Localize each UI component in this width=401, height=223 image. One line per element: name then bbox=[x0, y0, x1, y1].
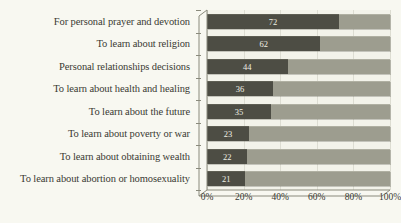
plot-area: 7262443635232221 bbox=[207, 10, 390, 190]
value-tick-label: 0% bbox=[201, 192, 214, 202]
bar-segment-primary: 35 bbox=[207, 104, 271, 119]
bar-row: 21 bbox=[207, 168, 390, 191]
bar-row: 23 bbox=[207, 123, 390, 146]
category-tick bbox=[196, 78, 201, 79]
bar-value-label: 44 bbox=[243, 63, 252, 72]
stacked-bar: 35 bbox=[207, 104, 390, 119]
stacked-bar: 62 bbox=[207, 36, 390, 51]
value-axis-tick-labels: 0%20%40%60%80%100% bbox=[207, 192, 390, 208]
category-tick bbox=[196, 100, 201, 101]
category-tick bbox=[196, 55, 201, 56]
bar-series-group: 7262443635232221 bbox=[207, 10, 390, 190]
category-label: To learn about poverty or war bbox=[0, 123, 196, 146]
value-tick-label: 100% bbox=[379, 192, 401, 202]
value-tick-label: 20% bbox=[235, 192, 252, 202]
category-tick bbox=[196, 10, 201, 11]
bar-row: 72 bbox=[207, 10, 390, 33]
value-tick-label: 40% bbox=[271, 192, 288, 202]
bar-segment-primary: 72 bbox=[207, 14, 339, 29]
bar-value-label: 23 bbox=[224, 130, 233, 139]
value-tick-label: 60% bbox=[308, 192, 325, 202]
category-label: To learn about health and healing bbox=[0, 78, 196, 101]
category-label: To learn about religion bbox=[0, 33, 196, 56]
category-tick bbox=[196, 33, 201, 34]
category-axis-labels: For personal prayer and devotionTo learn… bbox=[0, 10, 196, 190]
bar-segment-remainder bbox=[339, 14, 390, 29]
bar-segment-primary: 62 bbox=[207, 36, 320, 51]
bar-segment-primary: 44 bbox=[207, 59, 288, 74]
bar-row: 22 bbox=[207, 145, 390, 168]
bar-row: 44 bbox=[207, 55, 390, 78]
bar-segment-remainder bbox=[320, 36, 390, 51]
bar-segment-remainder bbox=[271, 104, 390, 119]
category-tick bbox=[196, 123, 201, 124]
bar-segment-remainder bbox=[288, 59, 390, 74]
category-tick bbox=[196, 168, 201, 169]
category-tick bbox=[196, 145, 201, 146]
bar-value-label: 36 bbox=[236, 85, 245, 94]
bar-segment-primary: 36 bbox=[207, 81, 273, 96]
bar-value-label: 22 bbox=[223, 153, 232, 162]
bar-row: 35 bbox=[207, 100, 390, 123]
bar-row: 62 bbox=[207, 33, 390, 56]
stacked-bar: 36 bbox=[207, 81, 390, 96]
category-tick bbox=[196, 190, 201, 191]
stacked-bar: 23 bbox=[207, 126, 390, 141]
stacked-bar: 72 bbox=[207, 14, 390, 29]
bar-value-label: 72 bbox=[269, 18, 278, 27]
bar-segment-primary: 21 bbox=[207, 171, 245, 186]
category-label: To learn about obtaining wealth bbox=[0, 145, 196, 168]
bar-row: 36 bbox=[207, 78, 390, 101]
category-label: To learn about the future bbox=[0, 100, 196, 123]
bar-segment-remainder bbox=[245, 171, 390, 186]
stacked-bar: 21 bbox=[207, 171, 390, 186]
bar-segment-primary: 23 bbox=[207, 126, 249, 141]
bar-segment-remainder bbox=[249, 126, 390, 141]
bar-segment-remainder bbox=[273, 81, 390, 96]
bar-value-label: 62 bbox=[259, 40, 268, 49]
stacked-bar: 22 bbox=[207, 149, 390, 164]
bar-segment-remainder bbox=[247, 149, 390, 164]
category-label: Personal relationships decisions bbox=[0, 55, 196, 78]
category-label: To learn about abortion or homosexuality bbox=[0, 168, 196, 191]
gridline bbox=[390, 10, 391, 190]
bar-value-label: 21 bbox=[222, 175, 231, 184]
bar-segment-primary: 22 bbox=[207, 149, 247, 164]
category-label: For personal prayer and devotion bbox=[0, 10, 196, 33]
value-tick-label: 80% bbox=[345, 192, 362, 202]
bar-value-label: 35 bbox=[235, 108, 244, 117]
stacked-bar: 44 bbox=[207, 59, 390, 74]
